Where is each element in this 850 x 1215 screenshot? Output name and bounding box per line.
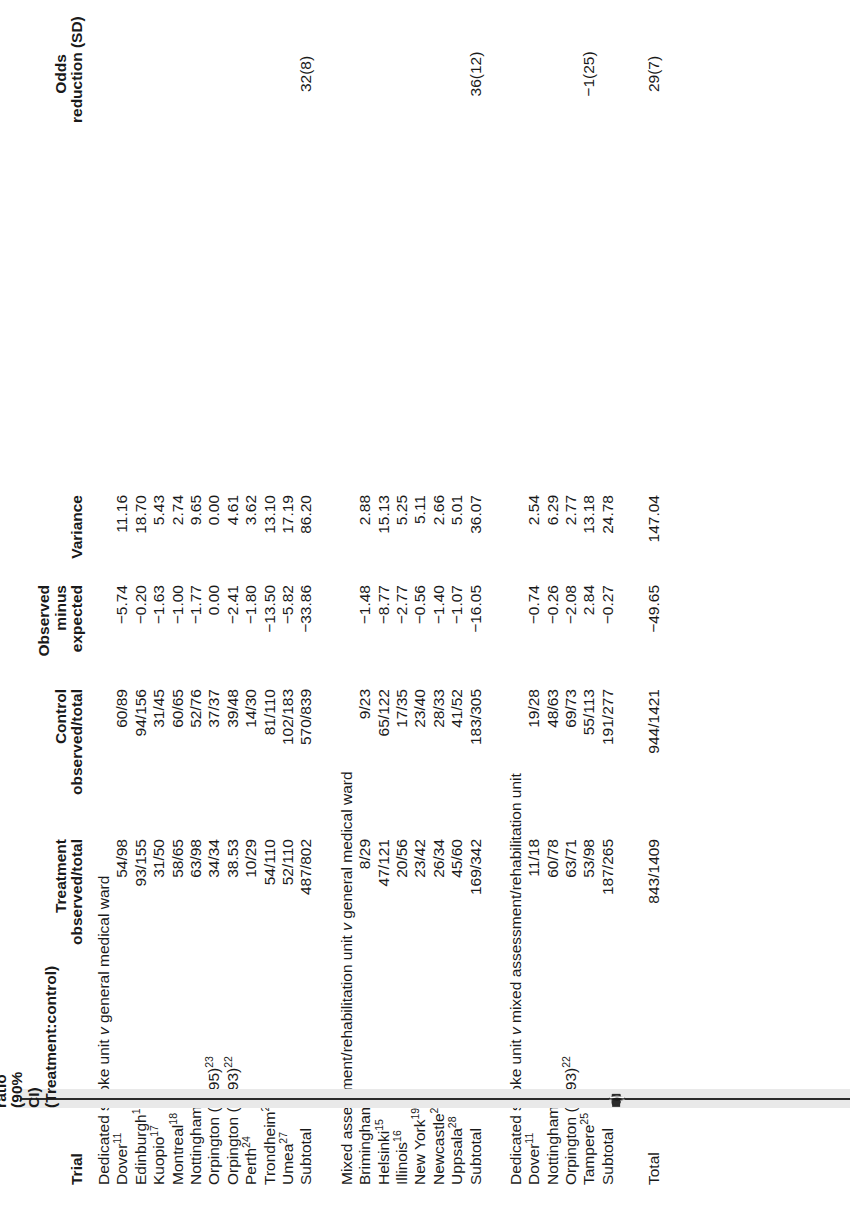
treatment-value: 47/121: [374, 839, 392, 989]
trial-label: Orpington (1993)22: [562, 989, 580, 1185]
header-treatment-line1: Treatment: [52, 839, 69, 913]
treatment-value: 52/110: [279, 839, 297, 989]
odds-reduction-value: [260, 25, 278, 123]
observed-minus-expected-value: −1.63: [150, 585, 168, 689]
observed-minus-expected-value: −2.08: [562, 585, 580, 689]
trial-reference: 19: [409, 1108, 421, 1120]
overall-diamond-marker: [609, 1099, 624, 1100]
forest-plot-table: Trial Treatment observed/total Control o…: [36, 25, 663, 1185]
variance-value: 2.66: [429, 495, 447, 585]
trial-label: New York19: [411, 989, 429, 1185]
observed-minus-expected-value: −1.07: [448, 585, 466, 689]
observed-minus-expected-value: 0.00: [205, 585, 223, 689]
plot-row-cell: [525, 123, 543, 495]
treatment-value: 34/34: [205, 839, 223, 989]
treatment-value: 23/42: [411, 839, 429, 989]
table-row: Orpington (1995)2334/3437/370.000.00: [205, 25, 223, 1185]
odds-cell-empty: [328, 25, 355, 123]
trial-reference: 16: [391, 1130, 403, 1142]
header-control-line2: observed/total: [68, 689, 85, 795]
plot-row-cell: [279, 123, 297, 495]
control-value: 102/183: [279, 689, 297, 839]
trial-label: Dover11: [113, 989, 131, 1185]
table-row: Subtotal487/802570/839−33.8686.2032(8): [297, 25, 315, 1185]
odds-reduction-value: [393, 25, 411, 123]
odds-cell-empty: [498, 25, 525, 123]
plot-row-cell: [466, 123, 484, 495]
header-control-line1: Control: [52, 689, 69, 744]
variance-value: 9.65: [187, 495, 205, 585]
plot-cell-empty: [498, 123, 525, 495]
header-odds-line1: Odds: [52, 54, 69, 94]
table-row: Orpington (1993)2263/7169/73−2.082.77: [562, 25, 580, 1185]
treatment-value: 187/265: [599, 839, 617, 989]
control-value: 60/65: [168, 689, 186, 839]
plot-row-cell: [356, 123, 374, 495]
observed-minus-expected-value: −13.50: [260, 585, 278, 689]
observed-minus-expected-value: −1.77: [187, 585, 205, 689]
variance-value: 5.11: [411, 495, 429, 585]
observed-minus-expected-value: −16.05: [466, 585, 484, 689]
control-value: 52/76: [187, 689, 205, 839]
treatment-value: 38.53: [223, 839, 241, 989]
variance-value: 36.07: [466, 495, 484, 585]
variance-value: 3.62: [242, 495, 260, 585]
trial-reference: 18: [166, 1113, 178, 1125]
odds-reduction-value: [411, 25, 429, 123]
header-odds-line2: reduction (SD): [68, 16, 85, 123]
control-value: 81/110: [260, 689, 278, 839]
control-value: 14/30: [242, 689, 260, 839]
treatment-value: 487/802: [297, 839, 315, 989]
treatment-value: 54/98: [113, 839, 131, 989]
trial-label: Nottingham21: [187, 989, 205, 1185]
table-row: New York1923/4223/40−0.565.11: [411, 25, 429, 1185]
odds-reduction-value: [448, 25, 466, 123]
plot-row-cell: [429, 123, 447, 495]
plot-row-cell: [113, 123, 131, 495]
group-heading: Dedicated stroke unit v general medical …: [86, 495, 113, 1185]
trial-label: Newcastle20: [429, 989, 447, 1185]
trial-label: Total: [630, 989, 663, 1185]
observed-minus-expected-value: −33.86: [297, 585, 315, 689]
odds-reduction-value: [205, 25, 223, 123]
variance-value: 5.43: [150, 495, 168, 585]
odds-reduction-value: [543, 25, 561, 123]
treatment-value: 169/342: [466, 839, 484, 989]
row-spacer: [617, 25, 630, 1185]
control-value: 31/45: [150, 689, 168, 839]
treatment-value: 31/50: [150, 839, 168, 989]
trial-label: Kuopio17: [150, 989, 168, 1185]
group-heading-versus: v: [507, 1027, 524, 1035]
table-row: Dover1111/1819/28−0.742.54: [525, 25, 543, 1185]
plot-row-cell: [223, 123, 241, 495]
observed-minus-expected-value: −1.80: [242, 585, 260, 689]
observed-minus-expected-value: −1.40: [429, 585, 447, 689]
treatment-value: 63/71: [562, 839, 580, 989]
trial-label: Illinois16: [393, 989, 411, 1185]
header-ome-line1: Observed: [35, 585, 52, 657]
total-odds-reduction-value: 29(7): [630, 25, 663, 123]
trial-label: Tampere25: [580, 989, 598, 1185]
header-plot-axis-caption: [36, 123, 86, 495]
plot-cell-empty: [328, 123, 355, 495]
table-row: Perth2410/2914/30−1.803.62: [242, 25, 260, 1185]
observed-minus-expected-value: −5.74: [113, 585, 131, 689]
treatment-value: 60/78: [543, 839, 561, 989]
header-variance: Variance: [36, 495, 86, 585]
table-row: Subtotal187/265191/277−0.2724.78: [599, 25, 617, 1185]
trial-label: Montreal18: [168, 989, 186, 1185]
plot-row-cell: [630, 123, 663, 495]
plot-row-cell: [260, 123, 278, 495]
odds-reduction-value: [429, 25, 447, 123]
trial-reference: 17: [148, 1125, 160, 1137]
treatment-value: 11/18: [525, 839, 543, 989]
control-value: 19/28: [525, 689, 543, 839]
null-effect-line: [20, 1098, 850, 1100]
trial-label: Edinburgh19: [132, 989, 150, 1185]
control-value: 37/37: [205, 689, 223, 839]
table-row: Brimingham108/299/23−1.482.88: [356, 25, 374, 1185]
variance-value: 18.70: [132, 495, 150, 585]
control-value: 69/73: [562, 689, 580, 839]
table-row: Tampere2553/9855/1132.8413.18−1(25): [580, 25, 598, 1185]
header-observed-minus-expected: Observed minus expected: [36, 585, 86, 689]
